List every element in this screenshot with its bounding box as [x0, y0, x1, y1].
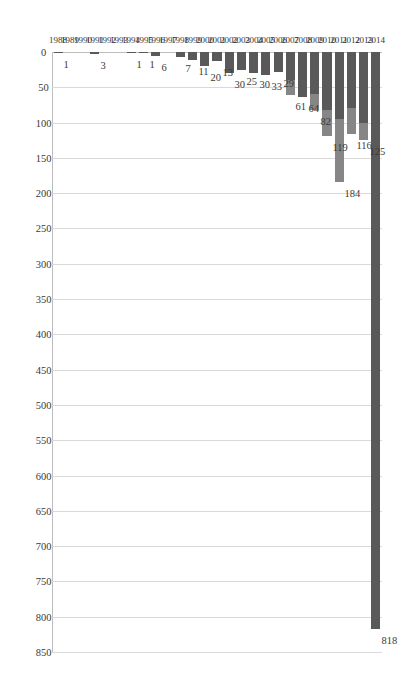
- chart-stage: 1988198919901991199219931994199519961997…: [0, 0, 402, 690]
- data-label-2008: 64: [297, 103, 308, 114]
- data-label-1991: 3: [89, 60, 100, 65]
- data-label-2009: 82: [309, 116, 320, 127]
- data-labels: 1311671120133025303329616482119184116125…: [0, 52, 402, 652]
- data-label-2004: 30: [248, 79, 259, 90]
- data-label-2003: 25: [236, 76, 247, 87]
- data-label-2006: 29: [273, 78, 284, 89]
- data-label-1995: 1: [138, 59, 149, 64]
- data-label-1998: 7: [175, 63, 186, 68]
- data-label-1994: 1: [126, 59, 137, 64]
- data-label-2000: 20: [199, 72, 210, 83]
- data-label-2005: 33: [260, 81, 271, 92]
- data-label-2012: 116: [346, 140, 357, 155]
- data-label-2007: 61: [285, 101, 296, 112]
- data-label-1999: 11: [187, 66, 198, 76]
- data-label-2001: 13: [212, 67, 223, 78]
- category-axis: 1988198919901991199219931994199519961997…: [0, 0, 402, 52]
- category-label-2014: 2014: [367, 35, 385, 45]
- data-label-1996: 6: [150, 62, 161, 67]
- gridline: [52, 652, 382, 653]
- data-label-1988: 1: [53, 59, 64, 64]
- data-label-2014: 818: [370, 635, 381, 651]
- data-label-2002: 30: [224, 79, 235, 90]
- data-label-2011: 184: [334, 188, 345, 204]
- data-label-2010: 119: [322, 142, 333, 157]
- bar-chart-figure: 1988198919901991199219931994199519961997…: [0, 0, 402, 690]
- data-label-2013: 125: [358, 146, 369, 162]
